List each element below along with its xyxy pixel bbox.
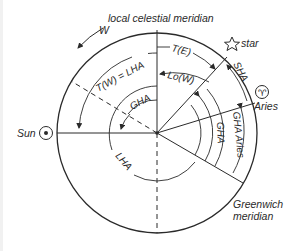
- longitude-west-label: Lo(W): [167, 69, 196, 85]
- lha-sun-label: LHA: [113, 150, 134, 172]
- inner-arc-1: [191, 105, 201, 155]
- star-icon: [225, 37, 240, 51]
- greenwich-upper-dashed: [71, 81, 157, 133]
- sun-label: Sun: [17, 127, 36, 139]
- greenwich-label-line2: meridian: [233, 210, 273, 222]
- gha-star-label: GHA: [215, 122, 227, 144]
- west-label: W: [99, 24, 110, 36]
- aries-glyph: ♈: [258, 88, 267, 98]
- celestial-diagram: ♈ local celestial meridian W T(W) = LHA …: [0, 0, 296, 251]
- t-east-label: T(E): [171, 42, 193, 57]
- greenwich-label-line1: Greenwich: [233, 198, 283, 210]
- gha-sun-label: GHA: [128, 92, 153, 112]
- center-point: [155, 131, 159, 135]
- gha-aries-label: GHA Aries: [231, 111, 247, 158]
- star-label: star: [241, 37, 259, 49]
- sha-label: SHA: [231, 60, 251, 84]
- aries-label: Aries: [253, 100, 279, 112]
- local-meridian-label: local celestial meridian: [108, 12, 214, 24]
